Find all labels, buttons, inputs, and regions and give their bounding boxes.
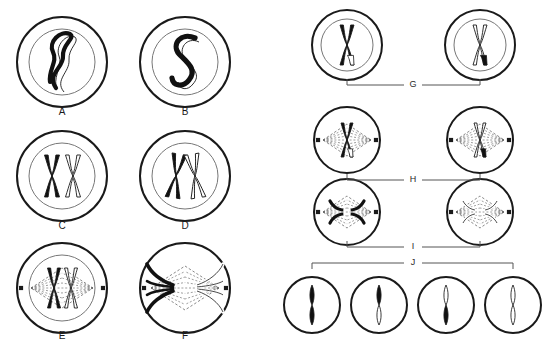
centrosome xyxy=(449,138,453,142)
cell-i-6 xyxy=(447,179,513,245)
cell-j-9 xyxy=(418,277,474,333)
chromatid-upper xyxy=(377,285,381,305)
cell-b: B xyxy=(140,17,230,117)
centrosome xyxy=(449,210,453,214)
bracket-label-j: J xyxy=(411,257,416,267)
right-panel-cells xyxy=(284,10,541,333)
centrosome xyxy=(374,210,378,214)
chromatid-lower xyxy=(377,305,381,325)
chromatid-upper xyxy=(310,285,314,305)
bracket-label-i: I xyxy=(412,241,415,251)
centrosome xyxy=(316,138,320,142)
centrosome xyxy=(374,138,378,142)
chromatid-lower xyxy=(310,305,314,325)
bracket-j: J xyxy=(312,257,513,269)
centrosome xyxy=(224,286,228,290)
cell-i-5 xyxy=(314,179,380,245)
chromatid-lower xyxy=(511,305,515,325)
chromatid-lower xyxy=(444,305,448,325)
bracket-h: H xyxy=(347,174,480,184)
centrosome xyxy=(101,286,105,290)
centrosome xyxy=(142,286,146,290)
centrosome xyxy=(507,210,511,214)
chromatid-upper xyxy=(511,285,515,305)
bracket-i: I xyxy=(347,241,480,251)
cell-c: C xyxy=(17,131,107,231)
cell-h-4 xyxy=(447,107,513,173)
cell-g-1 xyxy=(312,10,382,80)
cell-e: E xyxy=(17,243,107,341)
bracket-label-g: G xyxy=(409,79,416,89)
cell-label-c: C xyxy=(58,220,65,231)
centrosome xyxy=(19,286,23,290)
bracket-g: G xyxy=(347,79,480,89)
cell-a: A xyxy=(17,17,107,117)
cell-label-e: E xyxy=(59,330,66,341)
bracket-label-h: H xyxy=(410,174,417,184)
cell-d: D xyxy=(140,131,230,231)
meiosis-diagram-canvas: ABCDEFGHIJ xyxy=(0,0,553,350)
centrosome xyxy=(316,210,320,214)
chromatid-upper xyxy=(444,285,448,305)
cell-label-a: A xyxy=(59,106,66,117)
cell-membrane xyxy=(17,131,107,221)
cell-j-10 xyxy=(485,277,541,333)
cell-g-2 xyxy=(445,10,515,80)
cell-j-8 xyxy=(351,277,407,333)
cell-label-d: D xyxy=(181,220,188,231)
cell-membrane xyxy=(140,131,230,221)
meiosis-figure: ABCDEFGHIJ xyxy=(0,0,553,350)
cell-h-3 xyxy=(314,107,380,173)
cell-f: F xyxy=(140,243,230,341)
centrosome xyxy=(507,138,511,142)
cell-label-f: F xyxy=(182,330,188,341)
cell-label-b: B xyxy=(182,106,189,117)
cell-j-7 xyxy=(284,277,340,333)
left-panel-cells: ABCDEF xyxy=(17,17,230,341)
